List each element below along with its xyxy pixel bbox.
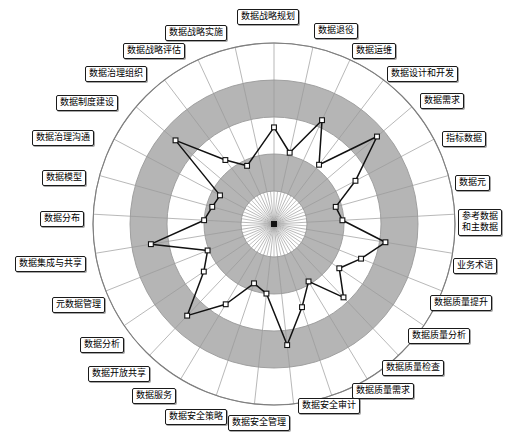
axis-label-15: 数据安全策略 <box>165 409 227 425</box>
axis-label-11: 数据质量检查 <box>382 360 444 376</box>
axis-label-line: 参考数据 <box>462 211 498 222</box>
chart-center-dot <box>271 221 277 227</box>
data-point-marker <box>300 305 305 310</box>
data-point-marker <box>341 295 346 300</box>
data-point-marker <box>359 256 364 261</box>
data-point-marker <box>264 291 269 296</box>
axis-label-13: 数据安全审计 <box>298 398 360 414</box>
data-point-marker <box>375 134 380 139</box>
axis-label-20: 数据集成与共享 <box>15 256 86 272</box>
axis-label-10: 数据质量分析 <box>408 328 470 344</box>
axis-label-21: 数据分布 <box>40 211 84 227</box>
data-point-marker <box>272 125 277 130</box>
data-point-marker <box>320 118 325 123</box>
data-point-marker <box>173 138 178 143</box>
axis-label-23: 数据治理沟通 <box>32 130 94 146</box>
data-point-marker <box>185 313 190 318</box>
data-point-marker <box>340 218 345 223</box>
data-point-marker <box>223 158 228 163</box>
axis-label-5: 指标数据 <box>442 131 486 147</box>
data-point-marker <box>287 150 292 155</box>
center-dot <box>271 221 277 227</box>
axis-label-16: 数据服务 <box>132 388 176 404</box>
axis-label-7: 参考数据和主数据 <box>458 209 502 236</box>
axis-label-12: 数据质量需求 <box>352 383 414 399</box>
data-point-marker <box>205 248 210 253</box>
data-point-marker <box>285 343 290 348</box>
axis-label-22: 数据模型 <box>42 170 86 186</box>
axis-label-3: 数据设计和开发 <box>387 66 458 82</box>
axis-label-19: 元数据管理 <box>52 297 105 313</box>
axis-label-27: 数据战略实施 <box>165 25 227 41</box>
data-point-marker <box>148 242 153 247</box>
axis-label-2: 数据运维 <box>352 43 396 59</box>
axis-label-14: 数据安全管理 <box>228 415 290 431</box>
data-point-marker <box>210 204 215 209</box>
axis-label-25: 数据治理组织 <box>85 66 147 82</box>
radar-chart-page: 数据战略规划数据退役数据运维数据设计和开发数据需求指标数据数据元参考数据和主数据… <box>0 0 529 446</box>
axis-label-24: 数据制度建设 <box>56 95 118 111</box>
data-point-marker <box>383 240 388 245</box>
data-point-marker <box>306 279 311 284</box>
data-point-marker <box>245 163 250 168</box>
axis-label-17: 数据开放共享 <box>88 366 150 382</box>
data-point-marker <box>337 266 342 271</box>
axis-label-4: 数据需求 <box>420 93 464 109</box>
axis-label-26: 数据战略评估 <box>123 43 185 59</box>
data-point-marker <box>223 302 228 307</box>
axis-label-8: 业务术语 <box>453 258 497 274</box>
data-point-marker <box>317 162 322 167</box>
axis-label-18: 数据分析 <box>80 337 124 353</box>
data-point-marker <box>202 218 207 223</box>
axis-label-9: 数据质量提升 <box>430 295 492 311</box>
axis-label-6: 数据元 <box>455 175 490 191</box>
data-point-marker <box>333 204 338 209</box>
axis-label-line: 和主数据 <box>462 222 498 233</box>
data-point-marker <box>201 269 206 274</box>
axis-label-0: 数据战略规划 <box>237 9 299 25</box>
data-point-marker <box>353 178 358 183</box>
data-point-marker <box>218 193 223 198</box>
axis-label-1: 数据退役 <box>314 23 358 39</box>
data-point-marker <box>252 281 257 286</box>
